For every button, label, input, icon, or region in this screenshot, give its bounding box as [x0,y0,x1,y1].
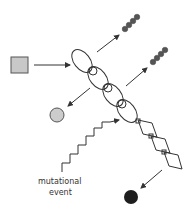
arrow-to-beads-top [97,35,119,52]
input-square [11,57,28,73]
zigzag-arrow [62,120,119,172]
diagram-canvas: mutational event [0,0,190,214]
diamond-link [151,136,170,153]
bead-chain-right [150,47,168,65]
ellipse-link [99,80,128,110]
black-circle [124,190,138,204]
ellipse-link [84,63,113,93]
diamond-link [138,120,157,137]
ellipse-chain [68,46,142,126]
arrow-to-black-circle [141,170,162,188]
mutational-event-label-line2: event [49,188,72,197]
diamond-link [164,152,182,169]
mutational-event-label-line1: mutational [38,177,81,186]
diamond-chain [136,119,182,169]
arrow-to-beads-right [126,68,147,86]
bead [162,47,168,53]
bead [134,14,140,20]
arrow-to-gray-circle [68,88,90,106]
bead-chain-top [122,14,140,32]
gray-circle [50,108,64,122]
ellipse-link [68,46,97,76]
ellipse-link [113,96,142,126]
